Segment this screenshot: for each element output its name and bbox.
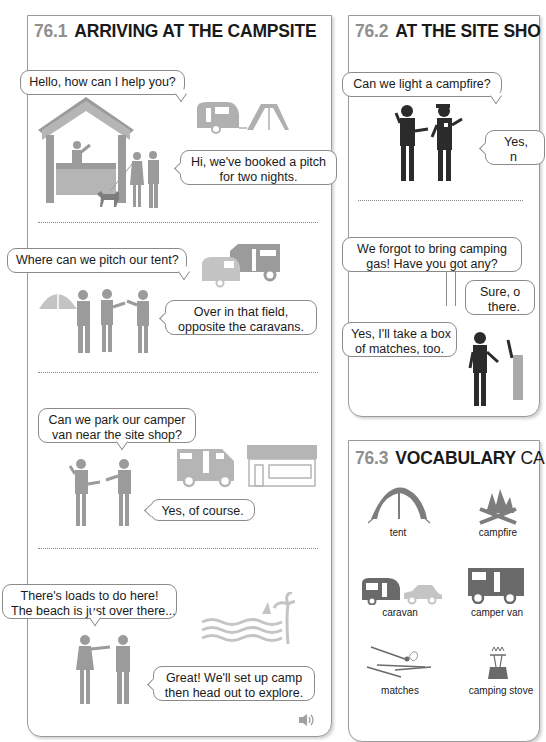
section-title: 76.3VOCABULARY CA bbox=[355, 448, 544, 469]
dotted-divider bbox=[38, 222, 318, 223]
speech-text-line2: gas! Have you got any? bbox=[351, 257, 513, 272]
speech-bubble-matches: Yes, I'll take a box of matches, too. bbox=[342, 322, 457, 357]
camping-stove-icon bbox=[484, 645, 512, 683]
beach-illustration bbox=[200, 592, 295, 647]
reply-text-line2: for two nights. bbox=[189, 170, 328, 185]
speech-bubble-camping-gas: We forgot to bring camping gas! Have you… bbox=[342, 237, 522, 272]
caravan-tent-illustration bbox=[195, 100, 295, 135]
reply-bubble-of-course: Yes, of course. bbox=[150, 499, 255, 521]
reply-text-line1: Sure, o bbox=[474, 285, 526, 300]
two-people-illustration bbox=[68, 458, 143, 528]
reply-bubble-campfire: Yes, n bbox=[485, 130, 545, 165]
group-with-tent-illustration bbox=[35, 283, 160, 355]
speech-text: Where can we pitch our tent? bbox=[16, 253, 179, 267]
connector-line bbox=[446, 270, 447, 306]
reply-text-line1: Over in that field, bbox=[174, 305, 308, 320]
reply-text-line1: Great! We'll set up camp bbox=[162, 671, 306, 686]
staff-and-camper-illustration bbox=[390, 103, 470, 183]
reply-bubble-sure: Sure, o there. bbox=[465, 280, 535, 315]
speech-text-line1: Can we park our camper bbox=[47, 413, 187, 428]
speech-text: Hello, how can I help you? bbox=[29, 75, 176, 89]
customer-at-counter-illustration bbox=[468, 330, 523, 410]
speech-bubble-greeting: Hello, how can I help you? .b1::after{} bbox=[20, 70, 185, 95]
reply-text-line1: Hi, we've booked a pitch bbox=[189, 155, 328, 170]
speech-text-line2: of matches, too. bbox=[351, 342, 448, 357]
couple-beach-illustration bbox=[72, 635, 142, 707]
vocab-label-matches: matches bbox=[360, 685, 440, 696]
reply-text-line1: Yes, bbox=[494, 135, 536, 150]
vocab-label-campfire: campfire bbox=[458, 527, 538, 538]
section-heading: AT THE SITE SHO bbox=[395, 21, 540, 41]
speech-text-line1: We forgot to bring camping bbox=[351, 242, 513, 257]
vocab-label-camping-stove: camping stove bbox=[456, 685, 546, 696]
speech-text: Can we light a campfire? bbox=[353, 77, 491, 91]
speech-bubble-beach: There's loads to do here! The beach is j… bbox=[2, 584, 177, 619]
section-title: 76.2AT THE SITE SHO bbox=[355, 21, 541, 42]
vocab-label-camper-van: camper van bbox=[457, 607, 537, 618]
speech-text-line2: The beach is just over there... bbox=[11, 604, 168, 619]
speech-text-line1: Yes, I'll take a box bbox=[351, 327, 448, 342]
reply-text-line2: then head out to explore. bbox=[162, 686, 306, 701]
couple-with-dog-illustration bbox=[95, 150, 175, 210]
speech-text-line1: There's loads to do here! bbox=[11, 589, 168, 604]
section-heading: ARRIVING AT THE CAMPSITE bbox=[74, 21, 316, 41]
campfire-icon bbox=[478, 487, 518, 525]
reply-text: Yes, of course. bbox=[161, 504, 243, 518]
section-number: 76.1 bbox=[34, 21, 67, 41]
reply-text-line2: there. bbox=[474, 300, 526, 315]
speech-bubble-campfire: Can we light a campfire? bbox=[342, 72, 502, 97]
section-heading-rest: CA bbox=[520, 448, 544, 468]
camper-van-icon bbox=[466, 566, 526, 604]
caravan-icon bbox=[360, 577, 444, 605]
campervan-shop-illustration bbox=[175, 443, 320, 488]
section-number: 76.3 bbox=[355, 448, 388, 468]
reply-bubble-booked: Hi, we've booked a pitch for two nights. bbox=[180, 150, 337, 185]
matches-icon bbox=[365, 645, 435, 680]
dotted-divider bbox=[38, 372, 318, 373]
speech-text-line2: van near the site shop? bbox=[47, 428, 187, 443]
section-heading-bold: VOCABULARY bbox=[395, 448, 516, 468]
vocab-label-caravan: caravan bbox=[360, 607, 440, 618]
vocab-label-tent: tent bbox=[358, 527, 438, 538]
speaker-icon[interactable] bbox=[298, 713, 316, 727]
reply-bubble-field: Over in that field, opposite the caravan… bbox=[165, 300, 317, 335]
section-title: 76.1ARRIVING AT THE CAMPSITE bbox=[34, 21, 316, 42]
reply-text-line2: opposite the caravans. bbox=[174, 320, 308, 335]
reply-bubble-set-up-camp: Great! We'll set up camp then head out t… bbox=[153, 666, 315, 701]
speech-bubble-park-van: Can we park our camper van near the site… bbox=[38, 408, 196, 443]
section-number: 76.2 bbox=[355, 21, 388, 41]
connector-line bbox=[455, 270, 456, 306]
tent-icon bbox=[367, 487, 431, 525]
caravan-campervan-illustration bbox=[200, 243, 285, 288]
dotted-divider bbox=[358, 200, 523, 201]
speech-bubble-pitch-tent: Where can we pitch our tent? bbox=[7, 248, 187, 273]
dotted-divider bbox=[38, 548, 318, 549]
reply-text-line2: n bbox=[494, 150, 536, 165]
